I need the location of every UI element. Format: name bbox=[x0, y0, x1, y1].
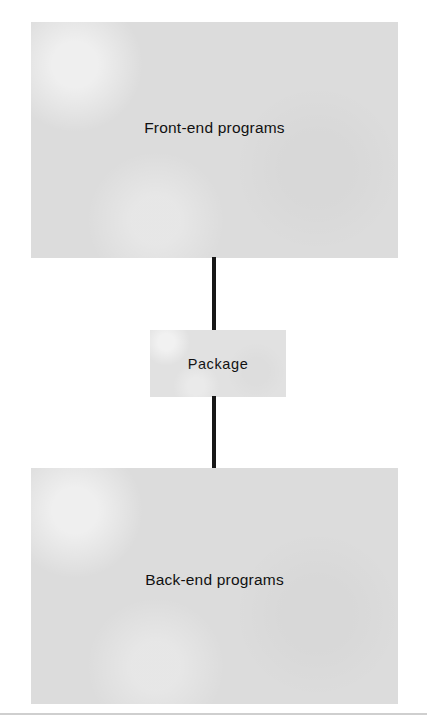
node-package[interactable]: Package bbox=[150, 330, 286, 397]
connector-frontend-to-package bbox=[212, 257, 216, 331]
connector-package-to-backend bbox=[212, 396, 216, 469]
node-back-end-programs[interactable]: Back-end programs bbox=[31, 468, 398, 704]
node-label-package: Package bbox=[188, 356, 249, 372]
paper-grain-overlay bbox=[31, 22, 398, 258]
flow-diagram: Front-end programs Package Back-end prog… bbox=[0, 0, 427, 720]
node-front-end-programs[interactable]: Front-end programs bbox=[31, 22, 398, 258]
footer-divider bbox=[0, 713, 427, 715]
node-label-back-end-programs: Back-end programs bbox=[145, 571, 284, 589]
node-label-front-end-programs: Front-end programs bbox=[144, 119, 285, 137]
